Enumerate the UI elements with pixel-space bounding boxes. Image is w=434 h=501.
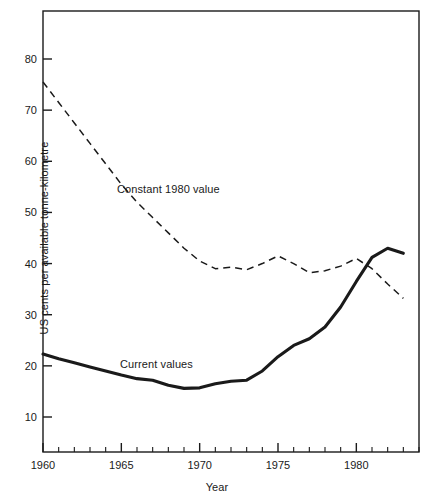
chart-figure: 1020304050607080 19601965197019751980 Co… (0, 0, 434, 501)
y-axis-tick-label-group: 1020304050607080 (25, 53, 37, 423)
x-axis-tick-label: 1980 (344, 459, 368, 471)
y-axis-tick-label: 30 (25, 309, 37, 321)
y-axis-tick-label: 40 (25, 258, 37, 270)
y-axis-tick-label: 20 (25, 360, 37, 372)
x-axis-title: Year (0, 481, 434, 493)
chart-plot-svg: 1020304050607080 19601965197019751980 (0, 0, 434, 501)
x-axis-tick-label: 1965 (109, 459, 133, 471)
y-axis-tick-label: 10 (25, 411, 37, 423)
y-axis-title: US cents per available tonne-kilometre (38, 108, 50, 368)
x-axis-tick-label-group: 19601965197019751980 (31, 459, 369, 471)
y-axis-tick-label: 50 (25, 206, 37, 218)
y-axis-tick-label: 60 (25, 155, 37, 167)
y-axis-tick-label: 80 (25, 53, 37, 65)
series-annotation-current-values: Current values (120, 358, 193, 370)
x-axis-tick-label: 1970 (187, 459, 211, 471)
x-axis-tick-label: 1975 (266, 459, 290, 471)
plot-background (43, 11, 419, 452)
x-axis-tick-label: 1960 (31, 459, 55, 471)
y-axis-tick-label: 70 (25, 104, 37, 116)
series-annotation-constant-1980-value: Constant 1980 value (117, 183, 220, 195)
